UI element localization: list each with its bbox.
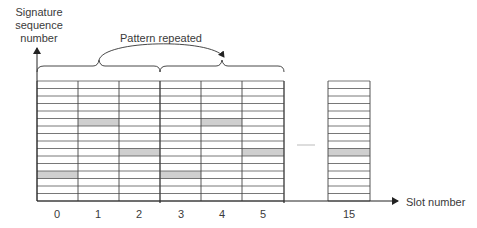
brace-group-2	[160, 60, 284, 72]
shaded-cell-slot-15	[328, 149, 370, 157]
shaded-cell-slot-0	[37, 171, 78, 179]
grid-columns	[37, 81, 370, 203]
brace-group-1	[37, 60, 160, 72]
shaded-cell-slot-4	[201, 119, 242, 127]
grid-rows	[37, 81, 370, 201]
shaded-cell-slot-3	[160, 171, 201, 179]
shaded-cell-slot-2	[119, 149, 160, 157]
shaded-cell-slot-1	[78, 119, 119, 127]
repeat-arrow	[99, 44, 224, 60]
shaded-cell-slot-5	[242, 149, 284, 157]
slot-grid-diagram	[0, 0, 477, 228]
